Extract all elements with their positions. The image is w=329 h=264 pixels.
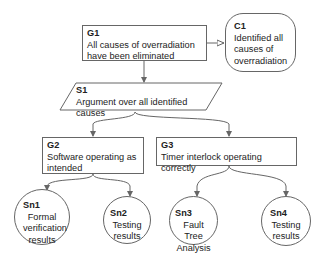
solution-sn2-text: Testing results [112, 220, 141, 242]
solution-sn1-text: Formal verification results [23, 212, 67, 245]
strategy-s1[interactable]: S1 Argument over all identified causes [76, 85, 216, 120]
goal-g3-text: Timer interlock operating correctly [161, 152, 262, 174]
edge-g2-sn1 [47, 174, 93, 190]
goal-g2-text: Software operating as intended [47, 152, 136, 174]
solution-sn3[interactable]: Sn3 Fault Tree Analysis [169, 196, 218, 245]
goal-g2-id: G2 [47, 140, 139, 152]
solution-sn4-text: Testing results [271, 220, 300, 242]
goal-g1[interactable]: G1 All causes of overradiation have been… [82, 25, 207, 61]
strategy-s1-text: Argument over all identified causes [76, 97, 187, 119]
goal-g2[interactable]: G2 Software operating as intended [42, 137, 144, 174]
goal-g3[interactable]: G3 Timer interlock operating correctly [156, 137, 297, 166]
context-c1-text: Identified all causes of overradiation [234, 33, 287, 66]
solution-sn3-id: Sn3 [175, 208, 212, 220]
solution-sn3-text: Fault Tree Analysis [176, 220, 210, 253]
solution-sn2-id: Sn2 [110, 208, 144, 220]
goal-g1-id: G1 [87, 28, 202, 40]
solution-sn4[interactable]: Sn4 Testing results [261, 196, 311, 246]
goal-g1-text: All causes of overradiation have been el… [87, 40, 195, 62]
context-c1[interactable]: C1 Identified all causes of overradiatio… [225, 13, 296, 72]
context-c1-id: C1 [234, 21, 287, 33]
solution-sn2[interactable]: Sn2 Testing results [103, 196, 151, 244]
edge-g2-sn2 [93, 174, 130, 196]
solution-sn1[interactable]: Sn1 Formal verification results [14, 189, 70, 245]
solution-sn4-id: Sn4 [270, 208, 302, 220]
goal-g3-id: G3 [161, 140, 292, 152]
solution-sn1-id: Sn1 [23, 200, 61, 212]
strategy-s1-id: S1 [76, 85, 216, 97]
